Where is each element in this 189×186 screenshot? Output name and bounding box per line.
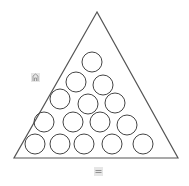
triangle-diagram <box>0 0 189 186</box>
circle-1 <box>82 52 102 72</box>
building-icon <box>31 73 40 82</box>
circle-6 <box>105 93 125 113</box>
circle-2 <box>66 72 86 92</box>
circle-5 <box>78 94 98 114</box>
circle-8 <box>63 112 83 132</box>
circle-11 <box>25 134 45 154</box>
circle-14 <box>102 134 122 154</box>
circle-10 <box>117 115 137 135</box>
circle-9 <box>90 112 110 132</box>
circle-13 <box>74 134 94 154</box>
circle-15 <box>133 134 153 154</box>
circle-3 <box>93 75 113 95</box>
circle-4 <box>50 89 70 109</box>
circle-12 <box>50 134 70 154</box>
equals-icon <box>94 167 103 176</box>
circle-7 <box>34 112 54 132</box>
triangle-outline <box>14 12 178 158</box>
